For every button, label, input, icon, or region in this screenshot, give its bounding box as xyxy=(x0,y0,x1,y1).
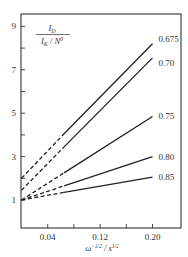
series-label: 0.70 xyxy=(159,58,175,68)
extrapolated-segment xyxy=(22,134,65,178)
y-tick-label: 9 xyxy=(12,21,17,31)
svg-text:ID: ID xyxy=(47,23,56,34)
measured-segment xyxy=(64,157,152,186)
measured-segment xyxy=(64,44,152,134)
measured-segment xyxy=(64,116,152,172)
series-label: 0.675 xyxy=(159,34,180,44)
series-label: 0.75 xyxy=(159,111,175,121)
y-tick-label: 7 xyxy=(12,65,17,75)
y-tick-label: 1 xyxy=(12,195,17,205)
series-label: 0.85 xyxy=(159,172,175,182)
x-axis: 0.040.120.20 xyxy=(40,224,161,242)
series-line-0.80 xyxy=(22,157,153,200)
x-axis-label: ω−1/2 / s1/2 xyxy=(85,243,119,254)
x-tick-label: 0.12 xyxy=(92,232,108,242)
x-tick-label: 0.04 xyxy=(40,232,56,242)
extrapolated-segment xyxy=(22,147,65,190)
y-tick-label: 3 xyxy=(12,152,17,162)
measured-segment xyxy=(64,177,152,192)
svg-text:ω−1/2 / s1/2: ω−1/2 / s1/2 xyxy=(85,243,119,254)
series-lines xyxy=(22,44,153,200)
series-line-0.85 xyxy=(22,177,153,200)
extrapolated-segment xyxy=(22,186,65,200)
series-line-0.70 xyxy=(22,58,153,190)
measured-segment xyxy=(64,58,152,147)
svg-text:IK / N0: IK / N0 xyxy=(40,36,63,47)
y-tick-label: 5 xyxy=(12,108,17,118)
series-label: 0.80 xyxy=(159,152,175,162)
chart: 13579 0.040.120.20 0.6750.700.750.800.85… xyxy=(0,0,188,257)
y-axis-label: ID IK / N0 xyxy=(36,23,70,47)
series-labels: 0.6750.700.750.800.85 xyxy=(159,34,180,182)
x-tick-label: 0.20 xyxy=(145,232,161,242)
